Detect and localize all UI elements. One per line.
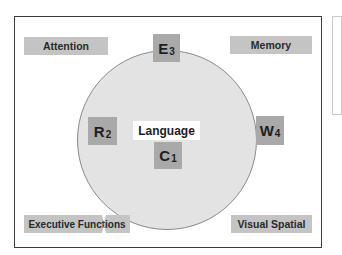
domain-memory: Memory — [230, 36, 312, 54]
domain-memory-label: Memory — [251, 39, 291, 51]
domain-attention: Attention — [24, 37, 108, 55]
component-w4-subscript: 4 — [275, 128, 281, 139]
component-c1-subscript: 1 — [171, 153, 177, 164]
side-panel — [332, 16, 342, 115]
domain-executive-functions: Executive Functions — [24, 215, 130, 233]
component-w4-letter: W — [260, 122, 274, 139]
domain-visual-spatial-label: Visual Spatial — [237, 218, 305, 230]
component-r2-subscript: 2 — [106, 129, 112, 140]
domain-attention-label: Attention — [43, 40, 89, 52]
domain-visual-spatial: Visual Spatial — [231, 215, 312, 233]
component-c1-letter: C — [159, 147, 170, 164]
component-e3-letter: E — [158, 40, 168, 57]
component-w4: W4 — [256, 116, 284, 145]
center-language-text: Language — [138, 124, 195, 138]
component-e3-subscript: 3 — [169, 46, 175, 57]
component-e3: E3 — [153, 34, 180, 62]
center-language-label: Language — [133, 121, 200, 140]
component-r2-letter: R — [94, 123, 105, 140]
domain-executive-functions-label: Executive Functions — [28, 219, 125, 230]
component-r2: R2 — [88, 117, 117, 145]
component-c1: C1 — [154, 142, 182, 169]
